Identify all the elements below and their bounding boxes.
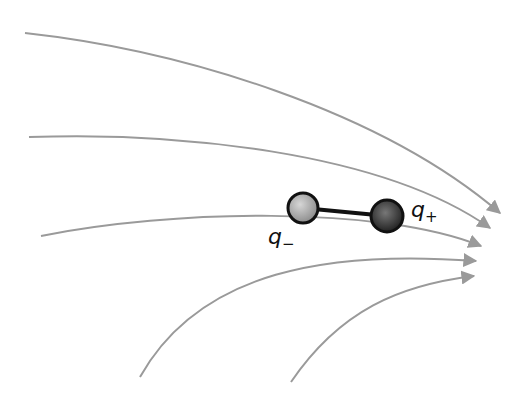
field-line-1 — [25, 33, 500, 213]
negative-charge — [288, 193, 318, 223]
negative-charge-label: q− — [268, 224, 295, 253]
field-line-5 — [291, 276, 474, 382]
positive-charge — [371, 200, 403, 232]
dipole-field-diagram: q− q+ — [0, 0, 523, 410]
positive-charge-label: q+ — [411, 197, 438, 226]
